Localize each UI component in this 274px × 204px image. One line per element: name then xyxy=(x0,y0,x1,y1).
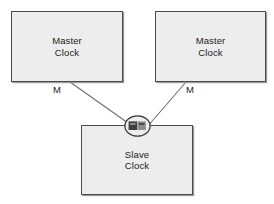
edge-label-right-m: M xyxy=(186,85,194,95)
node-master-clock-left-label-line2: Clock xyxy=(55,47,79,59)
junction-block-left xyxy=(129,121,137,130)
master-slave-clock-diagram: Master Clock Master Clock Slave Clock M … xyxy=(0,0,274,204)
edge-label-left-m: M xyxy=(53,85,61,95)
node-master-clock-right-label-line2: Clock xyxy=(198,47,222,59)
node-slave-clock-label-line2: Clock xyxy=(125,160,149,172)
connector-line-left xyxy=(70,82,128,123)
node-master-clock-left[interactable]: Master Clock xyxy=(11,11,123,82)
node-master-clock-right[interactable]: Master Clock xyxy=(155,11,266,82)
node-master-clock-right-label-line1: Master xyxy=(196,35,226,47)
node-slave-clock-label-line1: Slave xyxy=(125,149,149,161)
junction-block-left-highlight xyxy=(130,123,135,125)
clock-selector-icon[interactable] xyxy=(124,115,151,137)
junction-block-right xyxy=(137,121,145,130)
connector-line-right xyxy=(147,82,186,127)
node-master-clock-left-label-line1: Master xyxy=(52,35,82,47)
junction-block-right-highlight xyxy=(139,123,144,125)
